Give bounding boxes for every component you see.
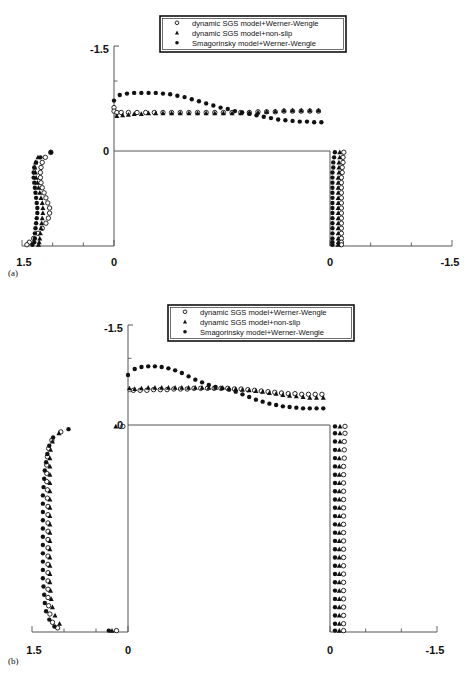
panel-b: -1.51.500-1.50dynamic SGS model+Werner-W… <box>0 292 467 676</box>
svg-text:Smagorinsky model+Werner-Wengl: Smagorinsky model+Werner-Wengle <box>192 39 316 48</box>
svg-text:1.5: 1.5 <box>26 644 41 656</box>
svg-text:dynamic SGS model+non-slip: dynamic SGS model+non-slip <box>200 318 300 327</box>
panel-b-label: (b) <box>8 656 19 666</box>
svg-text:0: 0 <box>125 644 131 656</box>
panel-b-plot: -1.51.500-1.50dynamic SGS model+Werner-W… <box>0 292 467 676</box>
svg-text:dynamic SGS model+non-slip: dynamic SGS model+non-slip <box>192 29 292 38</box>
svg-text:0: 0 <box>103 145 109 157</box>
svg-text:0: 0 <box>327 256 333 268</box>
panel-a: -1.51.500-1.50dynamic SGS model+Werner-W… <box>0 0 467 292</box>
svg-text:-1.5: -1.5 <box>90 43 109 55</box>
svg-text:Smagorinsky model+Werner-Wengl: Smagorinsky model+Werner-Wengle <box>200 328 324 337</box>
svg-text:-1.5: -1.5 <box>104 322 123 334</box>
svg-text:-1.5: -1.5 <box>441 256 460 268</box>
svg-text:0: 0 <box>117 419 123 431</box>
panel-a-label: (a) <box>8 268 18 278</box>
svg-text:0: 0 <box>111 256 117 268</box>
svg-text:dynamic SGS model+Werner-Wengl: dynamic SGS model+Werner-Wengle <box>200 308 327 317</box>
svg-text:0: 0 <box>327 644 333 656</box>
figure-container: -1.51.500-1.50dynamic SGS model+Werner-W… <box>0 0 467 676</box>
svg-text:-1.5: -1.5 <box>426 644 445 656</box>
svg-text:dynamic SGS model+Werner-Wengl: dynamic SGS model+Werner-Wengle <box>192 19 319 28</box>
svg-text:1.5: 1.5 <box>16 256 31 268</box>
panel-a-plot: -1.51.500-1.50dynamic SGS model+Werner-W… <box>0 0 467 292</box>
